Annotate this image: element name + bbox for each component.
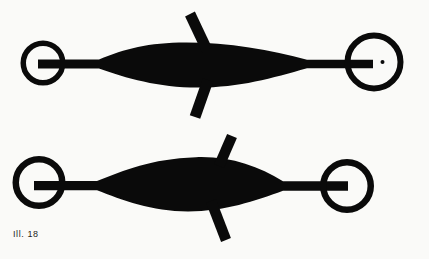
bottom-body-and-shaft	[34, 157, 348, 211]
illustration-canvas	[0, 0, 429, 259]
top-right-ring-dot	[381, 60, 385, 64]
figure-caption: Ill. 18	[13, 229, 39, 239]
lure-figure-top	[23, 12, 400, 119]
lure-figure-bottom	[16, 134, 371, 242]
illustration-plate: Ill. 18	[0, 0, 429, 259]
